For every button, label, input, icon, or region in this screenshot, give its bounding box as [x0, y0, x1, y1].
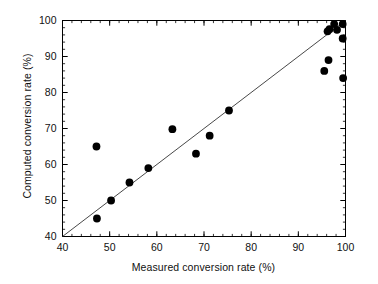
x-tick-label: 50	[104, 241, 116, 253]
data-point	[225, 107, 233, 115]
x-tick-label: 40	[57, 241, 69, 253]
plot-canvas: 405060708090100 405060708090100	[0, 0, 378, 284]
y-tick-label: 80	[45, 86, 57, 98]
data-point	[325, 56, 333, 64]
x-tick-label: 70	[198, 241, 210, 253]
data-point	[107, 197, 115, 205]
data-point	[339, 35, 347, 43]
data-point	[206, 132, 214, 140]
data-point	[339, 74, 347, 82]
y-tick-label: 50	[45, 194, 57, 206]
data-point	[144, 164, 152, 172]
scatter-plot-figure: Computed conversion rate (%) Measured co…	[0, 0, 378, 284]
y-tick-label: 70	[45, 122, 57, 134]
data-point	[339, 20, 347, 28]
data-point	[93, 215, 101, 223]
x-tick-label: 80	[245, 241, 257, 253]
y-tick-label: 90	[45, 50, 57, 62]
y-tick-label: 40	[45, 230, 57, 242]
data-point	[320, 67, 328, 75]
y-tick-label: 60	[45, 158, 57, 170]
data-point	[192, 150, 200, 158]
data-point-layer	[93, 20, 347, 222]
y-tick-label: 100	[39, 14, 57, 26]
x-tick-label: 100	[337, 241, 355, 253]
x-tick-label: 90	[292, 241, 304, 253]
x-tick-label: 60	[151, 241, 163, 253]
y-axis-tick-labels: 405060708090100	[39, 14, 57, 242]
identity-reference-line	[63, 21, 346, 237]
data-point	[93, 143, 101, 151]
data-point	[333, 26, 341, 34]
data-point	[168, 125, 176, 133]
x-axis-tick-labels: 405060708090100	[57, 241, 355, 253]
data-point	[126, 179, 134, 187]
